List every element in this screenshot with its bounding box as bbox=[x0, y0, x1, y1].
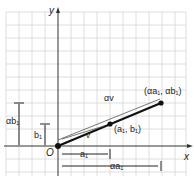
point-a1-b1-label: (a₁, b₁) bbox=[114, 124, 141, 134]
alpha-v-label: αv bbox=[104, 93, 114, 103]
point-alpha-a1-b1 bbox=[158, 100, 163, 105]
b1-label: b₁ bbox=[34, 130, 42, 140]
point-a1-b1 bbox=[107, 121, 112, 126]
x-axis-label: x bbox=[183, 151, 190, 162]
v-label: v bbox=[86, 131, 90, 140]
a1-label: a₁ bbox=[80, 149, 88, 159]
x-axis-arrow-icon bbox=[187, 144, 193, 148]
y-axis-arrow-icon bbox=[56, 7, 60, 13]
point-alpha-label: (αa₁, αb₁) bbox=[144, 86, 182, 96]
origin-point bbox=[55, 143, 61, 149]
origin-label: O bbox=[46, 147, 54, 158]
alpha-b1-label: αb₁ bbox=[6, 116, 19, 126]
alpha-a1-label: αa₁ bbox=[110, 161, 123, 171]
y-axis-label: y bbox=[48, 5, 55, 16]
v-vector-line bbox=[62, 126, 104, 139]
vector-scaling-diagram: y x O αv v (a₁, b₁) (αa₁, αb₁) αb₁ b₁ a₁… bbox=[0, 0, 194, 178]
alpha-v-guide bbox=[58, 99, 160, 140]
